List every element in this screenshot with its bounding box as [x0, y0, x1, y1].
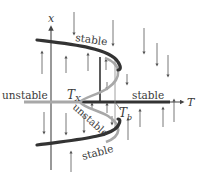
- point-label-tb: Tb: [119, 106, 132, 122]
- tx-subscript: X: [74, 94, 81, 103]
- upper-stable-branch: [37, 40, 120, 70]
- label-axis-unstable: unstable: [2, 89, 48, 101]
- svg-text:Tb: Tb: [119, 106, 132, 122]
- svg-text:TX: TX: [67, 88, 81, 103]
- x-axis-label: x: [48, 12, 55, 25]
- label-axis-stable: stable: [132, 89, 164, 101]
- tb-subscript: b: [127, 113, 132, 122]
- label-middle-unstable: unstable: [71, 101, 111, 138]
- label-lower-stable: stable: [80, 142, 114, 162]
- t-axis-label: T: [187, 96, 196, 109]
- bifurcation-diagram: x T stable unstable stable unstable stab…: [0, 0, 208, 178]
- point-label-tx: TX: [67, 88, 81, 103]
